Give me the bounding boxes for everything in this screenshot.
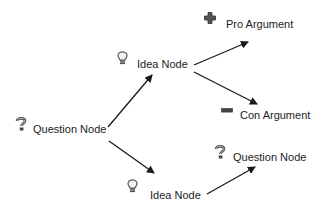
question-icon (214, 144, 226, 159)
edge-q1-to-idea2[interactable] (109, 141, 154, 173)
edge-idea1-to-pro[interactable] (194, 42, 248, 65)
question-icon (15, 116, 27, 131)
pro-argument-node[interactable]: Pro Argument (204, 11, 304, 31)
question-node-2[interactable]: Question Node (213, 143, 313, 165)
idea-node-1[interactable]: Idea Node (117, 50, 197, 72)
minus-icon (221, 108, 233, 113)
node-label: Idea Node (137, 58, 188, 70)
edge-idea1-to-con[interactable] (194, 72, 257, 104)
con-argument-node[interactable]: Con Argument (220, 103, 318, 123)
question-node-1[interactable]: Question Node (14, 114, 104, 136)
lightbulb-icon (127, 179, 138, 193)
node-label: Con Argument (240, 109, 310, 121)
plus-icon (204, 12, 216, 24)
edge-q1-to-idea1[interactable] (108, 75, 152, 127)
node-label: Pro Argument (226, 18, 293, 30)
node-label: Idea Node (150, 189, 201, 201)
lightbulb-icon (117, 51, 128, 65)
node-label: Question Node (233, 151, 306, 163)
edge-idea2-to-q2[interactable] (207, 167, 255, 194)
idea-node-2[interactable]: Idea Node (127, 178, 207, 200)
node-label: Question Node (33, 123, 106, 135)
issue-map-canvas: Question Node Idea Node Pro Argument Con… (0, 0, 318, 211)
